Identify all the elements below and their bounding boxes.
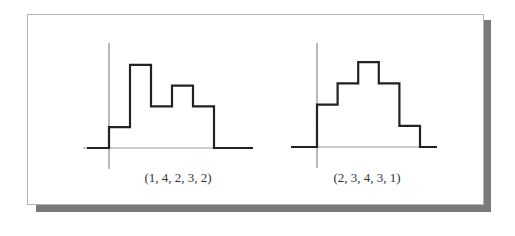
- left-step-line: [87, 65, 253, 148]
- right-step-line: [291, 62, 437, 147]
- left-chart-label: (1, 4, 2, 3, 2): [144, 170, 211, 186]
- left-chart: [83, 43, 253, 169]
- right-chart-label: (2, 3, 4, 3, 1): [333, 170, 400, 186]
- right-chart: [291, 43, 437, 168]
- step-charts: [0, 0, 515, 236]
